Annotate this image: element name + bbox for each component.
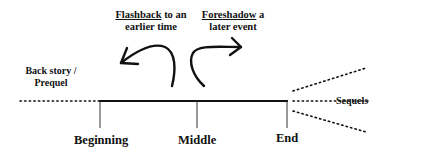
sequels-label: Sequels xyxy=(336,95,368,107)
sequels-text: Sequels xyxy=(336,95,368,106)
prequel-text-1: Back story / xyxy=(25,65,76,76)
flashback-keyword: Flashback xyxy=(115,9,161,20)
prequel-text-2: Prequel xyxy=(34,77,67,88)
flashback-label: Flashback to an earlier time xyxy=(113,9,189,33)
foreshadow-keyword: Foreshadow xyxy=(202,9,257,20)
foreshadow-text-1: a xyxy=(256,9,264,20)
prequel-label: Back story / Prequel xyxy=(20,65,82,88)
flashback-text-2: earlier time xyxy=(125,21,177,32)
foreshadow-label: Foreshadow a later event xyxy=(197,9,269,33)
timeline-label-end: End xyxy=(276,131,298,145)
flashback-text-1: to an xyxy=(162,9,187,20)
flashback-arrow-icon xyxy=(121,46,174,86)
sequel-dotted-line-up xyxy=(293,68,366,91)
foreshadow-text-2: later event xyxy=(209,21,256,32)
timeline-label-beginning: Beginning xyxy=(74,133,128,147)
timeline-label-middle: Middle xyxy=(178,133,216,147)
sequel-dotted-line-down xyxy=(293,111,366,132)
foreshadow-arrow-icon xyxy=(191,38,241,86)
